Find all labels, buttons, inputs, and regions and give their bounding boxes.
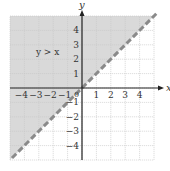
y-tick-label: 3 (73, 40, 79, 50)
x-tick-label: −2 (44, 90, 57, 100)
y-tick-label: −4 (66, 141, 80, 151)
x-tick-label: 3 (122, 90, 128, 100)
y-tick-label: 2 (73, 54, 79, 64)
y-tick-label: −3 (66, 126, 80, 136)
x-tick-label: −3 (29, 90, 43, 100)
x-tick-label: 1 (94, 90, 100, 100)
y-axis-label: y (78, 0, 85, 10)
x-tick-label: 2 (108, 90, 114, 100)
inequality-plot: −4−3−2−11234−4−3−2−11234 y > x x y 0 (0, 0, 170, 171)
x-tick-label: 4 (137, 90, 143, 100)
inequality-label: y > x (35, 47, 59, 57)
origin-label: 0 (74, 90, 79, 99)
y-tick-label: −2 (66, 112, 79, 122)
y-tick-label: 4 (73, 25, 79, 35)
y-tick-label: 1 (73, 69, 79, 79)
x-tick-label: −4 (15, 90, 29, 100)
x-axis-label: x (166, 82, 170, 93)
